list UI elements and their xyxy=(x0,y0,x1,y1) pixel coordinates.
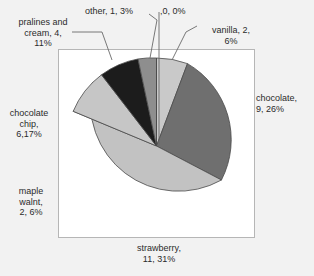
slice-label-vanilla: vanilla, 2, 6% xyxy=(198,25,264,46)
pie-chart-figure: pralines and cream, 4, 11% other, 1, 3% … xyxy=(0,0,314,276)
slice-label-other: other, 1, 3% xyxy=(72,6,146,17)
slice-label-pralines-and-cream: pralines and cream, 4, 11% xyxy=(2,17,84,49)
slice-label-maple-walnut: maple walnt, 2, 6% xyxy=(6,186,56,218)
slice-label-strawberry: strawberry, 11, 31% xyxy=(104,243,214,264)
slice-label-empty-zero: ,0, 0% xyxy=(160,6,208,17)
slice-label-chocolate-chip: chocolate chip, 6,17% xyxy=(0,108,58,140)
slice-label-chocolate: chocolate, 9, 26% xyxy=(256,93,314,114)
